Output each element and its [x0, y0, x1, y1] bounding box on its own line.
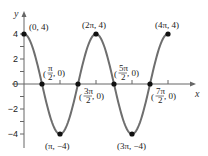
label-3pi-half-0: ( 3π 2 , 0)	[79, 86, 104, 105]
svg-text:(: (	[43, 69, 46, 79]
label-0-4: (0, 4)	[29, 22, 49, 32]
point-0-4	[21, 31, 26, 36]
label-pi-neg4: (π, −4)	[45, 141, 70, 151]
y-tick-label-neg4: −4	[8, 129, 18, 139]
label-4pi-4: (4π, 4)	[155, 20, 179, 30]
label-3pi-neg4: (3π, −4)	[117, 141, 146, 151]
svg-text:(: (	[79, 92, 82, 102]
y-tick-label-neg2: −2	[8, 104, 18, 114]
svg-text:2: 2	[86, 95, 91, 105]
point-3pi-half-0	[75, 81, 80, 86]
x-axis-arrow-icon	[190, 82, 196, 87]
svg-text:2: 2	[158, 95, 163, 105]
point-5pi-half-0	[111, 81, 116, 86]
y-axis-label: y	[13, 8, 19, 19]
y-axis-arrow-icon	[22, 11, 27, 17]
svg-text:2: 2	[48, 72, 53, 82]
svg-text:2: 2	[121, 72, 126, 82]
cosine-chart: y x 4 2 0 −2 −4 (0, 4) (2	[0, 0, 208, 156]
svg-text:, 0): , 0)	[127, 68, 139, 78]
point-pi-neg4	[57, 131, 62, 136]
svg-text:, 0): , 0)	[53, 68, 65, 78]
y-tick-label-0: 0	[13, 79, 18, 89]
x-axis-label: x	[194, 88, 200, 99]
label-7pi-half-0: ( 7π 2 , 0)	[151, 86, 176, 105]
point-7pi-half-0	[147, 81, 152, 86]
svg-text:, 0): , 0)	[92, 91, 104, 101]
y-tick-label-4: 4	[13, 29, 18, 39]
point-2pi-4	[93, 31, 98, 36]
point-4pi-4	[165, 31, 170, 36]
svg-text:(: (	[114, 69, 117, 79]
svg-text:(: (	[151, 92, 154, 102]
label-5pi-half-0: ( 5π 2 , 0)	[114, 63, 139, 82]
y-tick-label-2: 2	[13, 54, 18, 64]
svg-text:, 0): , 0)	[164, 91, 176, 101]
label-pi-half-0: ( π 2 , 0)	[43, 63, 65, 82]
point-3pi-neg4	[129, 131, 134, 136]
point-pi-half-0	[39, 81, 44, 86]
label-2pi-4: (2π, 4)	[82, 20, 106, 30]
